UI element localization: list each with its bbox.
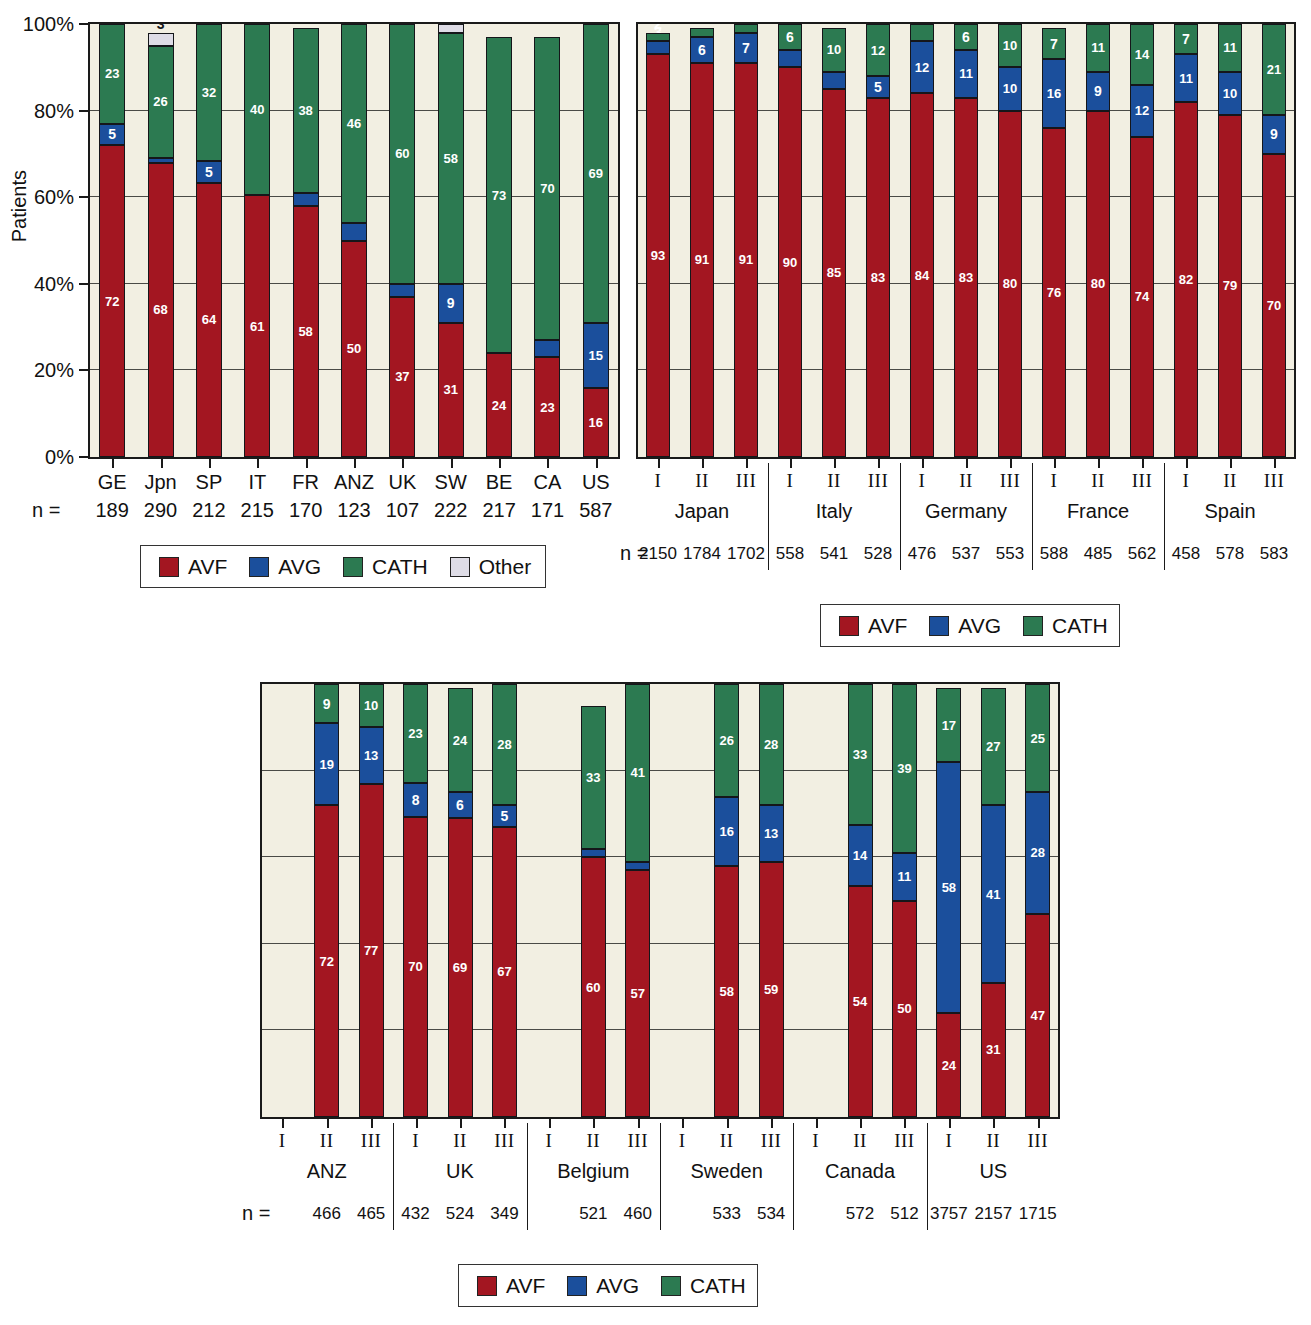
plot-area: 7252368126364532614058338504463736031958… — [88, 22, 620, 459]
legend-item-cath: CATH — [1023, 614, 1108, 638]
bar-segment-other: 3 — [148, 33, 174, 46]
stacked-bar: 245817 — [936, 684, 961, 1117]
x-axis-n-value: 3757 — [930, 1204, 968, 1224]
bar-segment-cath: 28 — [492, 684, 517, 805]
segment-value: 9 — [1270, 127, 1278, 141]
bar-segment-avg: 13 — [759, 805, 784, 861]
stacked-bar: 50446 — [341, 24, 367, 457]
x-axis-n-value: 524 — [446, 1204, 474, 1224]
segment-value: 17 — [942, 719, 956, 732]
segment-value: 3 — [157, 22, 165, 31]
bar-segment-cath: 69 — [583, 24, 609, 323]
stacked-bar: 6140 — [244, 24, 270, 457]
x-axis-phase-label: II — [1223, 470, 1237, 492]
x-axis-tick — [1142, 459, 1144, 468]
bar-segment-avg: 10 — [998, 67, 1022, 110]
segment-value: 28 — [764, 738, 778, 751]
x-axis-group-label: Canada — [825, 1160, 895, 1183]
bar-segment-avg: 3 — [389, 284, 415, 297]
stacked-bar: 60233 — [581, 684, 606, 1117]
segment-value: 5 — [874, 80, 882, 94]
x-axis-tick — [306, 459, 308, 468]
y-axis-tick — [79, 23, 88, 25]
bar-segment-avf: 57 — [625, 870, 650, 1117]
y-axis-tick — [79, 369, 88, 371]
x-axis-phase-label: III — [868, 470, 888, 492]
bar-segment-avg: 4 — [534, 340, 560, 357]
bar-segment-avg: 11 — [954, 50, 978, 98]
stacked-bar: 9172 — [734, 24, 758, 457]
n-equals-label: n = — [32, 499, 60, 522]
stacked-bar: 70921 — [1262, 24, 1286, 457]
segment-value: 23 — [105, 67, 119, 80]
legend-item-avf: AVF — [839, 614, 907, 638]
y-axis-tick — [79, 196, 88, 198]
x-axis-n-value: 541 — [820, 544, 848, 564]
segment-value: 10 — [1003, 82, 1017, 95]
legend-item-avg: AVG — [929, 614, 1001, 638]
bar-segment-avf: 47 — [1025, 914, 1050, 1118]
legend-label: AVF — [868, 614, 907, 638]
bar-segment-avg: 16 — [1042, 59, 1066, 128]
bar-segment-avf: 77 — [359, 784, 384, 1117]
plot-area: 7219977131070823696246752860233572415816… — [260, 682, 1060, 1119]
x-axis-category-label: ANZ — [334, 471, 374, 494]
x-axis-group-label: Italy — [816, 500, 853, 523]
segment-value: 12 — [1135, 104, 1149, 117]
bar-segment-avf: 69 — [448, 818, 473, 1117]
legend-item-avf: AVF — [159, 555, 227, 579]
bar-segment-cath: 10 — [822, 28, 846, 71]
legend: AVFAVGCATH — [458, 1264, 758, 1307]
bar-segment-cath: 12 — [866, 24, 890, 76]
x-axis-n-value: 215 — [241, 499, 274, 522]
segment-value: 25 — [1031, 732, 1045, 745]
x-axis-tick — [1230, 459, 1232, 468]
bar-segment-avf: 67 — [492, 827, 517, 1117]
stacked-bar: 83512 — [866, 24, 890, 457]
bar-segment-avf: 80 — [998, 111, 1022, 457]
legend-label: Other — [479, 555, 532, 579]
bar-segment-avf: 31 — [981, 983, 1006, 1117]
segment-value: 16 — [1047, 87, 1061, 100]
y-axis-title: Patients — [8, 170, 31, 242]
segment-value: 13 — [764, 827, 778, 840]
stacked-bar: 801010 — [998, 24, 1022, 457]
x-axis-tick — [1186, 459, 1188, 468]
bar-segment-avf: 91 — [734, 63, 758, 457]
bar-segment-avf: 68 — [148, 163, 174, 457]
bar-segment-avg: 41 — [981, 805, 1006, 983]
bar-segment-cath: 23 — [99, 24, 125, 124]
legend-label: AVG — [278, 555, 321, 579]
stacked-bar: 741214 — [1130, 24, 1154, 457]
x-axis-tick — [416, 1119, 418, 1128]
x-axis-n-value: 466 — [312, 1204, 340, 1224]
x-axis-n-value: 588 — [1040, 544, 1068, 564]
segment-value: 14 — [853, 849, 867, 862]
segment-value: 11 — [1179, 72, 1193, 85]
segment-value: 83 — [959, 271, 973, 284]
bar-segment-avf: 37 — [389, 297, 415, 457]
segment-value: 5 — [205, 165, 213, 179]
segment-value: 84 — [915, 269, 929, 282]
segment-value: 83 — [871, 271, 885, 284]
x-axis-tick — [702, 459, 704, 468]
stacked-bar: 23470 — [534, 24, 560, 457]
bar-segment-cath: 46 — [341, 24, 367, 223]
segment-value: 11 — [1223, 41, 1237, 54]
bar-segment-avf: 24 — [486, 353, 512, 457]
segment-value: 24 — [492, 399, 506, 412]
bar-segment-cath: 17 — [936, 688, 961, 762]
stacked-bar: 58338 — [293, 24, 319, 457]
bar-segment-avf: 58 — [293, 206, 319, 457]
segment-value: 10 — [827, 43, 841, 56]
x-axis-tick — [878, 459, 880, 468]
segment-value: 61 — [250, 320, 264, 333]
x-axis-phase-label: III — [736, 470, 756, 492]
bar-segment-cath: 25 — [1025, 684, 1050, 792]
bar-segment-avg: 10 — [1218, 72, 1242, 115]
stacked-bar: 681263 — [148, 24, 174, 457]
legend-item-avf: AVF — [477, 1274, 545, 1298]
segment-value: 93 — [651, 249, 665, 262]
segment-value: 5 — [108, 127, 116, 141]
segment-value: 33 — [853, 748, 867, 761]
